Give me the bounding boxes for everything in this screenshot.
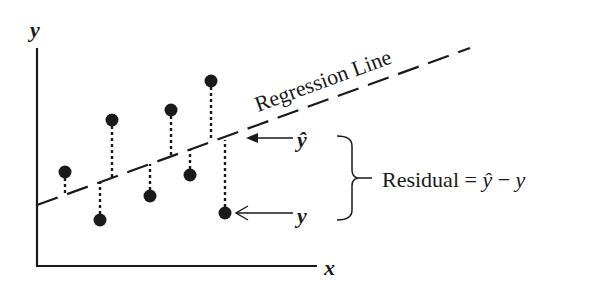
data-point [165,104,178,117]
regression-residual-diagram: y x Regression Line ŷ y [0,0,595,290]
data-point [184,169,197,182]
data-point-observed [219,207,232,220]
observed-label: y [294,203,307,228]
x-axis-label: x [323,255,335,280]
data-point [59,166,72,179]
data-point [144,190,157,203]
observed-arrow [236,206,293,220]
filled-arrowhead-icon [246,133,258,143]
residual-label: Residual = [382,167,482,192]
data-point [205,75,218,88]
predicted-label: ŷ [294,127,307,152]
data-points [59,75,232,227]
residual-formula: Residual = ŷ − y [382,167,526,192]
data-point [106,114,119,127]
predicted-arrow [246,133,293,143]
residual-yhat: ŷ [480,167,492,192]
y-axis-label: y [27,17,40,42]
residual-y: y [514,167,526,192]
residual-minus: − [492,167,515,192]
data-point [94,214,107,227]
regression-line-label: Regression Line [251,44,394,117]
brace-icon [337,136,358,220]
